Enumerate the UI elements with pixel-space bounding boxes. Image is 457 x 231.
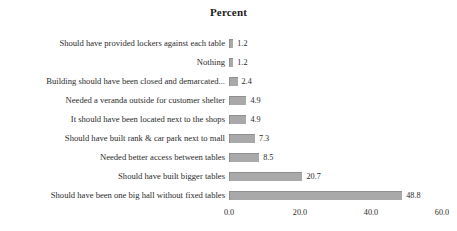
- bar-row: Should have built rank & car park next t…: [0, 129, 457, 148]
- bar: [229, 58, 233, 67]
- bar-track: 8.5: [229, 148, 457, 167]
- bar-track: 20.7: [229, 167, 457, 186]
- chart-title: Percent: [0, 6, 457, 18]
- bar-value-label: 1.2: [237, 53, 247, 72]
- bar-value-label: 2.4: [242, 72, 252, 91]
- bar-row: Should have built bigger tables20.7: [0, 167, 457, 186]
- bar: [229, 172, 302, 181]
- bar-value-label: 20.7: [306, 167, 320, 186]
- bar-value-label: 4.9: [250, 91, 260, 110]
- category-label: Needed a veranda outside for customer sh…: [66, 91, 225, 110]
- x-axis-tick-label: 0.0: [224, 206, 234, 220]
- bar: [229, 191, 402, 200]
- bar-row: Should have provided lockers against eac…: [0, 34, 457, 53]
- bar: [229, 115, 246, 124]
- x-axis-tick-label: 20.0: [293, 206, 307, 220]
- x-axis-tick-label: 40.0: [364, 206, 378, 220]
- bar-row: Needed a veranda outside for customer sh…: [0, 91, 457, 110]
- category-label: Should have built rank & car park next t…: [65, 129, 225, 148]
- bar: [229, 153, 259, 162]
- category-label: It should have been located next to the …: [71, 110, 225, 129]
- x-axis-tick-label: 60.0: [435, 206, 449, 220]
- bar: [229, 39, 233, 48]
- bar-row: Nothing1.2: [0, 53, 457, 72]
- category-label: Should have been one big hall without fi…: [51, 186, 225, 205]
- bar-track: 7.3: [229, 129, 457, 148]
- bar-track: 1.2: [229, 53, 457, 72]
- bar-track: 1.2: [229, 34, 457, 53]
- bar-track: 4.9: [229, 110, 457, 129]
- bar-row: Needed better access between tables8.5: [0, 148, 457, 167]
- category-label: Should have built bigger tables: [118, 167, 225, 186]
- bar-track: 48.8: [229, 186, 457, 205]
- bar-value-label: 7.3: [259, 129, 269, 148]
- bar-row: Should have been one big hall without fi…: [0, 186, 457, 205]
- category-label: Should have provided lockers against eac…: [59, 34, 225, 53]
- category-label: Needed better access between tables: [100, 148, 225, 167]
- category-label: Building should have been closed and dem…: [46, 72, 225, 91]
- x-axis: 0.020.040.060.0: [0, 206, 457, 222]
- bar-track: 2.4: [229, 72, 457, 91]
- bar-row: It should have been located next to the …: [0, 110, 457, 129]
- category-label: Nothing: [197, 53, 225, 72]
- bar-value-label: 48.8: [406, 186, 420, 205]
- bar-track: 4.9: [229, 91, 457, 110]
- bar: [229, 77, 238, 86]
- plot-area: Should have provided lockers against eac…: [0, 34, 457, 206]
- bar-value-label: 4.9: [250, 110, 260, 129]
- bar-row: Building should have been closed and dem…: [0, 72, 457, 91]
- bar-value-label: 1.2: [237, 34, 247, 53]
- bar-value-label: 8.5: [263, 148, 273, 167]
- bar: [229, 96, 246, 105]
- bar: [229, 134, 255, 143]
- percent-bar-chart: Percent Should have provided lockers aga…: [0, 0, 457, 231]
